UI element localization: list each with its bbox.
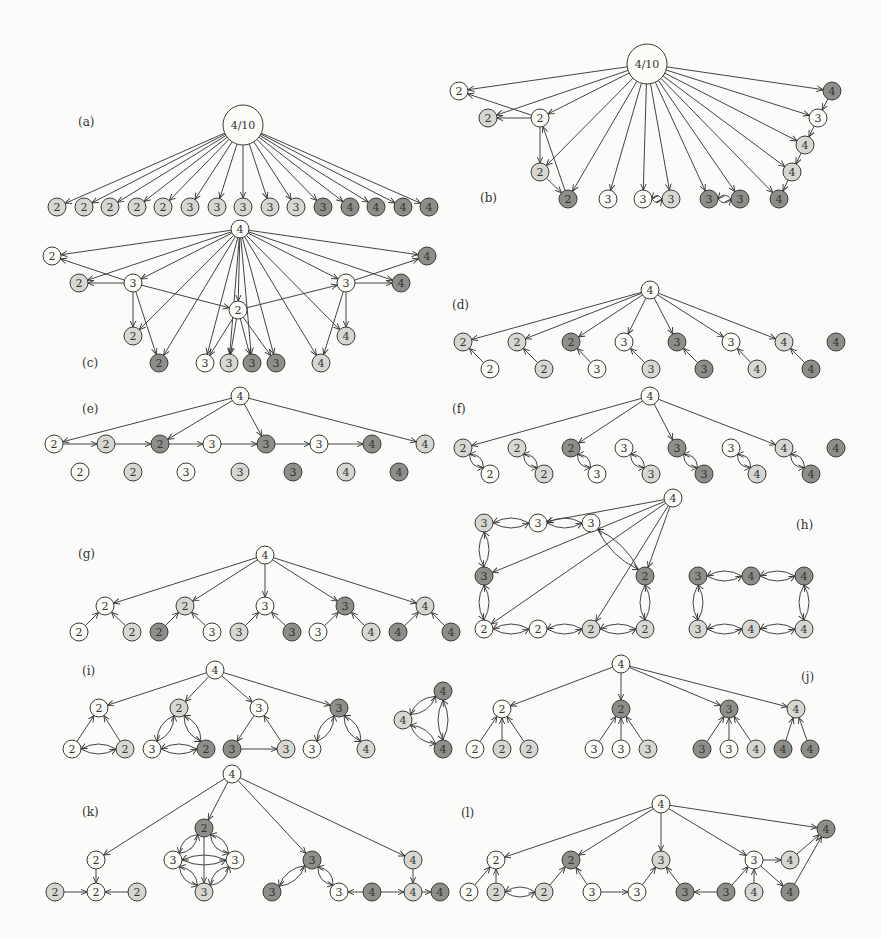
- node-label: 3: [701, 468, 708, 481]
- edge: [658, 293, 775, 338]
- panel-c: (c)4223222333344344: [43, 220, 436, 372]
- graph-node: 2: [529, 620, 547, 638]
- graph-node: 2: [466, 740, 484, 758]
- node-label: 4: [780, 743, 787, 756]
- node-label: 4: [808, 363, 815, 376]
- edge: [104, 779, 225, 855]
- node-label: 3: [621, 442, 628, 455]
- node-label: 3: [618, 743, 625, 756]
- edge: [783, 180, 788, 191]
- graph-node: 3: [582, 514, 600, 532]
- graph-node: 3: [310, 435, 328, 453]
- edge: [169, 139, 229, 200]
- edge: [600, 624, 636, 629]
- graph-node: 4: [389, 623, 407, 641]
- edge: [493, 629, 529, 634]
- node-label: 4: [808, 468, 815, 481]
- node-label: 3: [229, 743, 236, 756]
- graph-node: 3: [809, 109, 827, 127]
- edge: [666, 867, 679, 885]
- graph-node: 2: [150, 354, 168, 372]
- graph-node: 2: [124, 327, 142, 345]
- edge: [81, 744, 116, 749]
- graph-node: 3: [731, 190, 749, 208]
- graph-node: 3: [588, 360, 606, 378]
- node-label: 2: [541, 468, 548, 481]
- graph-node: 3: [693, 740, 711, 758]
- edge: [271, 612, 285, 626]
- panels-layer: (a)4/10222223333334444(b)4/1022222333334…: [43, 44, 845, 901]
- graph-node: 3: [585, 740, 603, 758]
- edge: [796, 153, 801, 164]
- node-label: 4: [398, 277, 405, 290]
- edge: [683, 348, 697, 362]
- edge: [693, 585, 698, 620]
- graph-node: 2: [636, 620, 654, 638]
- edge: [355, 259, 419, 280]
- edge: [652, 196, 662, 200]
- graph-node: 3: [720, 700, 738, 718]
- node-label: 4: [801, 623, 808, 636]
- node-label: 4: [787, 886, 794, 899]
- graph-node: 4: [367, 198, 385, 216]
- edge: [77, 716, 94, 742]
- graph-node: 4/10: [627, 44, 667, 84]
- node-label: 4: [400, 714, 407, 727]
- node-label: 3: [336, 702, 343, 715]
- graph-node: 3: [583, 883, 601, 901]
- graph-node: 4: [337, 463, 355, 481]
- graph-node: 2: [454, 439, 472, 457]
- edge: [718, 199, 731, 203]
- panel-label: (b): [480, 191, 497, 205]
- graph-node: 2: [197, 740, 215, 758]
- node-label: 2: [456, 85, 463, 98]
- node-label: 3: [309, 743, 316, 756]
- edge: [760, 576, 795, 581]
- graph-node: 2: [535, 883, 553, 901]
- edge: [244, 404, 261, 436]
- edge: [550, 867, 565, 885]
- graph-node: 4: [390, 463, 408, 481]
- graph-node: 4: [363, 435, 381, 453]
- node-label: 4: [748, 570, 755, 583]
- node-label: 2: [618, 703, 625, 716]
- edge: [600, 629, 636, 634]
- graph-node: 3: [257, 435, 275, 453]
- graph-node: 3: [642, 465, 660, 483]
- graph-node: 4: [362, 623, 380, 641]
- edge: [479, 532, 484, 567]
- node-label: 3: [481, 570, 488, 583]
- graph-node: 4: [781, 851, 799, 869]
- edge: [505, 892, 535, 897]
- panel-label: (g): [78, 547, 95, 561]
- node-label: 2: [134, 201, 141, 214]
- edge: [185, 677, 209, 702]
- node-label: 2: [588, 623, 595, 636]
- graph-node: 2: [71, 463, 89, 481]
- node-label: 2: [460, 442, 467, 455]
- node-label: 4/10: [635, 58, 660, 71]
- node-label: 3: [594, 468, 601, 481]
- graph-node: 4: [802, 360, 820, 378]
- edge: [577, 454, 590, 467]
- node-label: 3: [674, 442, 681, 455]
- node-label: 3: [267, 201, 274, 214]
- graph-node: 3: [250, 699, 268, 717]
- edge: [410, 696, 435, 714]
- graph-node: 2: [176, 597, 194, 615]
- node-label: 2: [565, 193, 572, 206]
- edge: [279, 866, 305, 887]
- node-label: 2: [129, 626, 136, 639]
- node-label: 3: [588, 517, 595, 530]
- node-label: 4: [237, 223, 244, 236]
- graph-node: 2: [48, 198, 66, 216]
- edge: [790, 454, 804, 468]
- graph-node: 2: [481, 465, 499, 483]
- graph-node: 2: [493, 740, 511, 758]
- graph-node: 3: [177, 463, 195, 481]
- node-label: 3: [170, 854, 177, 867]
- node-label: 3: [237, 466, 244, 479]
- edge: [546, 78, 633, 165]
- edges: [469, 398, 804, 467]
- node-label: 2: [160, 201, 167, 214]
